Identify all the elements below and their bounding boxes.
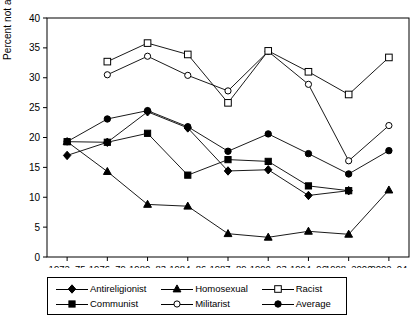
y-tick-label: 10 xyxy=(29,192,41,203)
y-tick-label: 5 xyxy=(34,222,40,233)
series-line xyxy=(67,111,389,174)
x-tick-label: 1998–2000 xyxy=(325,263,373,268)
series-communist xyxy=(64,130,352,194)
legend-marker-open-square xyxy=(273,284,283,294)
data-point xyxy=(103,167,111,174)
data-point xyxy=(225,100,232,107)
legend-label-3: Communist xyxy=(90,296,161,311)
data-point xyxy=(346,158,352,164)
chart-legend: Antireligionist Homosexual Racist Commun… xyxy=(47,277,347,315)
legend-marker-glyph xyxy=(173,285,181,292)
data-point xyxy=(305,227,313,234)
legend-label-2: Racist xyxy=(296,281,340,296)
data-point xyxy=(385,186,393,193)
data-point xyxy=(345,171,351,177)
y-tick-label: 40 xyxy=(29,13,41,24)
x-tick-label: 1972–75 xyxy=(49,263,86,268)
data-point xyxy=(185,172,191,178)
legend-label-0: Antireligionist xyxy=(90,281,161,296)
data-point xyxy=(305,183,311,189)
legend-symbol-5 xyxy=(262,296,296,311)
data-point xyxy=(346,188,352,194)
x-tick-label: 1990–93 xyxy=(250,263,287,268)
series-militarist xyxy=(104,48,392,164)
legend-symbol-1 xyxy=(161,281,195,296)
series-group xyxy=(63,40,393,240)
legend-symbol-4 xyxy=(161,296,195,311)
legend-label-4: Militarist xyxy=(195,296,262,311)
data-point xyxy=(63,151,70,159)
x-tick-label: 1987–89 xyxy=(210,263,247,268)
data-point xyxy=(184,51,191,58)
x-tick-label: 1976–79 xyxy=(89,263,126,268)
data-point xyxy=(64,138,70,144)
data-point xyxy=(144,53,150,59)
legend-label-1: Homosexual xyxy=(195,281,262,296)
legend-marker-filled-circle xyxy=(273,299,283,309)
data-point xyxy=(265,166,272,174)
y-axis-label: Percent not allowed xyxy=(2,0,13,60)
y-tick-label: 15 xyxy=(29,162,41,173)
legend-marker-glyph xyxy=(69,301,75,307)
data-point xyxy=(144,130,150,136)
plot-area: Percent not allowed 1972–751976–791980–8… xyxy=(0,0,420,268)
plot-frame xyxy=(47,18,409,257)
data-point xyxy=(144,40,151,47)
data-point xyxy=(185,124,191,130)
legend-label-5: Average xyxy=(296,296,340,311)
axes-group xyxy=(43,18,409,261)
data-point xyxy=(386,122,392,128)
legend-marker-filled-diamond xyxy=(67,284,77,294)
legend-symbol-2 xyxy=(262,281,296,296)
legend-symbol-3 xyxy=(56,296,90,311)
data-point xyxy=(184,202,192,209)
legend-marker-glyph xyxy=(68,285,75,293)
data-point xyxy=(305,191,312,199)
line-chart: 1972–751976–791980–831984–861987–891990–… xyxy=(0,0,420,268)
data-point xyxy=(386,54,393,61)
x-tick-label: 1980–83 xyxy=(129,263,166,268)
data-point xyxy=(185,72,191,78)
y-tick-label: 35 xyxy=(29,42,41,53)
data-point xyxy=(144,200,152,207)
data-point xyxy=(225,148,231,154)
data-point xyxy=(104,72,110,78)
legend-marker-open-circle xyxy=(172,299,182,309)
data-point xyxy=(225,157,231,163)
data-point xyxy=(305,150,311,156)
y-tick-labels: 0510152025303540 xyxy=(29,13,41,263)
series-line xyxy=(107,51,389,160)
data-point xyxy=(104,139,110,145)
data-point xyxy=(386,147,392,153)
data-point xyxy=(305,68,312,75)
data-point xyxy=(104,116,110,122)
chart-figure: Percent not allowed 1972–751976–791980–8… xyxy=(0,0,420,320)
y-tick-label: 20 xyxy=(29,132,41,143)
legend-marker-filled-square xyxy=(67,299,77,309)
x-tick-labels: 1972–751976–791980–831984–861987–891990–… xyxy=(49,263,408,268)
data-point xyxy=(305,81,311,87)
data-point xyxy=(345,91,352,98)
legend-marker-glyph xyxy=(174,301,180,307)
x-tick-label: 1984–86 xyxy=(169,263,206,268)
y-tick-label: 30 xyxy=(29,72,41,83)
data-point xyxy=(265,131,271,137)
data-point xyxy=(144,107,150,113)
data-point xyxy=(225,88,231,94)
data-point xyxy=(265,48,272,55)
data-point xyxy=(224,230,232,237)
series-racist xyxy=(104,40,392,106)
legend-symbol-0 xyxy=(56,281,90,296)
x-tick-label: 1994–96 xyxy=(290,263,327,268)
y-tick-label: 0 xyxy=(34,252,40,263)
x-tick-label: 2002–04 xyxy=(370,263,407,268)
data-point xyxy=(104,58,111,65)
legend-marker-glyph xyxy=(274,286,281,293)
y-tick-label: 25 xyxy=(29,102,41,113)
legend-marker-glyph xyxy=(274,301,280,307)
data-point xyxy=(265,158,271,164)
legend-marker-filled-triangle xyxy=(172,284,182,294)
